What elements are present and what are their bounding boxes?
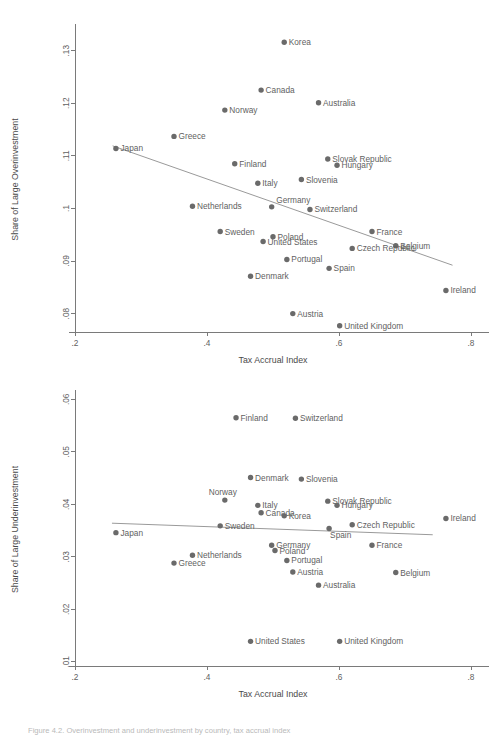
y-tick-label: .03: [61, 551, 71, 563]
data-point-marker: [218, 229, 223, 234]
data-point: Japan: [113, 528, 143, 538]
data-point-marker: [248, 639, 253, 644]
data-point: France: [369, 227, 402, 237]
data-point: Switzerland: [307, 204, 357, 214]
y-tick-label: .06: [61, 393, 71, 405]
data-point: Australia: [316, 580, 356, 590]
data-point: United States: [260, 237, 317, 247]
data-point-label: United Kingdom: [344, 321, 403, 331]
data-point: Greece: [171, 131, 206, 141]
data-point: Portugal: [284, 555, 322, 565]
data-point: United States: [248, 636, 305, 646]
y-tick-label: .04: [61, 498, 71, 510]
y-tick-label: .09: [61, 255, 71, 267]
x-tick-label: .2: [72, 338, 79, 348]
chart-underinvestment: .01.02.03.04.05.06.2.4.6.8Tax Accrual In…: [0, 366, 504, 714]
data-point-label: Poland: [279, 546, 305, 556]
data-point-marker: [233, 415, 238, 420]
data-point: Canada: [258, 85, 295, 95]
x-tick-label: .8: [468, 672, 475, 682]
data-point-marker: [232, 161, 237, 166]
y-tick-label: .01: [61, 656, 71, 668]
data-point-label: Netherlands: [197, 201, 242, 211]
data-point: Sweden: [218, 227, 256, 237]
data-point-label: Norway: [229, 105, 258, 115]
data-point-marker: [255, 180, 260, 185]
data-point-marker: [269, 543, 274, 548]
scatter-plot-overinvestment: .08.09.1.11.12.13.2.4.6.8Tax Accrual Ind…: [0, 0, 504, 366]
data-point-marker: [282, 513, 287, 518]
data-point: Austria: [290, 567, 323, 577]
data-point-label: Switzerland: [300, 413, 343, 423]
data-point-marker: [299, 177, 304, 182]
data-point-label: Norway: [209, 487, 238, 497]
data-point-marker: [299, 476, 304, 481]
data-point-marker: [325, 156, 330, 161]
data-point-label: Denmark: [255, 473, 290, 483]
x-axis-title: Tax Accrual Index: [239, 355, 309, 365]
chart-overinvestment: .08.09.1.11.12.13.2.4.6.8Tax Accrual Ind…: [0, 0, 504, 366]
data-point-marker: [316, 100, 321, 105]
data-point-marker: [218, 523, 223, 528]
y-tick-label: .02: [61, 603, 71, 615]
data-point: Korea: [282, 37, 312, 47]
data-point-label: Czech Republic: [357, 243, 415, 253]
data-point-label: Slovenia: [306, 175, 338, 185]
scatter-plot-underinvestment: .01.02.03.04.05.06.2.4.6.8Tax Accrual In…: [0, 366, 504, 714]
data-point-marker: [260, 239, 265, 244]
data-point: Czech Republic: [350, 520, 415, 530]
data-point-marker: [443, 288, 448, 293]
data-point-marker: [350, 522, 355, 527]
data-point-marker: [369, 543, 374, 548]
data-point-label: Austria: [297, 567, 323, 577]
data-point: Denmark: [248, 473, 290, 483]
data-point-label: France: [377, 540, 403, 550]
data-point-label: United States: [268, 237, 318, 247]
data-point-label: Spain: [334, 263, 356, 273]
data-point: Norway: [222, 105, 258, 115]
data-point: Denmark: [248, 271, 290, 281]
data-point: Norway: [209, 487, 238, 503]
y-tick-label: .1: [61, 205, 71, 212]
data-point-marker: [334, 503, 339, 508]
data-point-label: Ireland: [450, 513, 476, 523]
data-point-marker: [171, 134, 176, 139]
data-point-label: Italy: [262, 178, 278, 188]
data-point: Slovenia: [299, 474, 338, 484]
data-point-marker: [248, 475, 253, 480]
data-point-label: Spain: [330, 530, 352, 540]
data-point-marker: [269, 204, 274, 209]
data-point-marker: [293, 416, 298, 421]
data-point-label: Australia: [323, 580, 356, 590]
data-point-label: Switzerland: [314, 204, 357, 214]
data-point-marker: [334, 163, 339, 168]
data-point: Belgium: [393, 568, 430, 578]
x-tick-label: .4: [204, 338, 211, 348]
x-tick-label: .8: [468, 338, 475, 348]
y-tick-label: .05: [61, 446, 71, 458]
data-point: Italy: [255, 178, 278, 188]
x-tick-label: .2: [72, 672, 79, 682]
plot-area-overinvestment: .08.09.1.11.12.13.2.4.6.8Tax Accrual Ind…: [10, 24, 489, 365]
data-point-marker: [326, 266, 331, 271]
data-point: Finland: [232, 159, 267, 169]
data-point-label: United States: [255, 636, 305, 646]
data-point-marker: [316, 582, 321, 587]
data-point-marker: [248, 274, 253, 279]
data-point-label: Korea: [289, 511, 312, 521]
data-point-marker: [325, 498, 330, 503]
data-point-label: Portugal: [291, 254, 322, 264]
data-point-marker: [337, 639, 342, 644]
data-point: Slovenia: [299, 175, 338, 185]
data-point: Switzerland: [293, 413, 343, 423]
plot-area-underinvestment: .01.02.03.04.05.06.2.4.6.8Tax Accrual In…: [10, 390, 489, 699]
data-point: Australia: [316, 98, 356, 108]
data-point-label: Finland: [241, 413, 269, 423]
data-point-marker: [350, 246, 355, 251]
data-point-marker: [171, 560, 176, 565]
x-tick-label: .6: [336, 338, 343, 348]
data-point-marker: [258, 87, 263, 92]
data-point-label: Finland: [239, 159, 267, 169]
data-point-label: Korea: [289, 37, 312, 47]
data-point: United Kingdom: [337, 321, 403, 331]
